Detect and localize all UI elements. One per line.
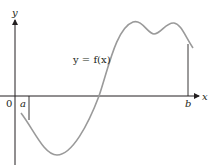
b-label: b [185,98,191,109]
function-graph: y x 0 a b y = f(x) [0,0,213,165]
x-axis-label: x [202,91,208,102]
y-axis-label: y [11,7,18,18]
a-label: a [20,98,26,109]
function-label: y = f(x) [72,54,111,65]
function-curve [21,22,193,155]
origin-label: 0 [6,98,12,109]
